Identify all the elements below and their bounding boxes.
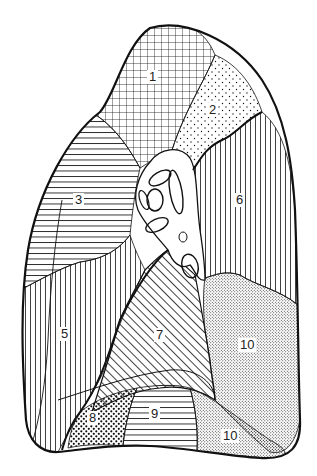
segment-5-label: 5 <box>59 327 70 341</box>
segment-6-label: 6 <box>234 193 245 207</box>
segment-10-lower-label: 10 <box>221 429 239 443</box>
segment-7-label: 7 <box>154 328 165 342</box>
segment-8-label: 8 <box>87 411 98 425</box>
segment-9-label: 9 <box>149 407 160 421</box>
segment-3-label: 3 <box>73 193 84 207</box>
segment-1-label: 1 <box>147 70 158 84</box>
segment-10-upper-label: 10 <box>238 338 256 352</box>
segment-2-label: 2 <box>207 103 218 117</box>
lung-segments-diagram <box>0 0 317 476</box>
